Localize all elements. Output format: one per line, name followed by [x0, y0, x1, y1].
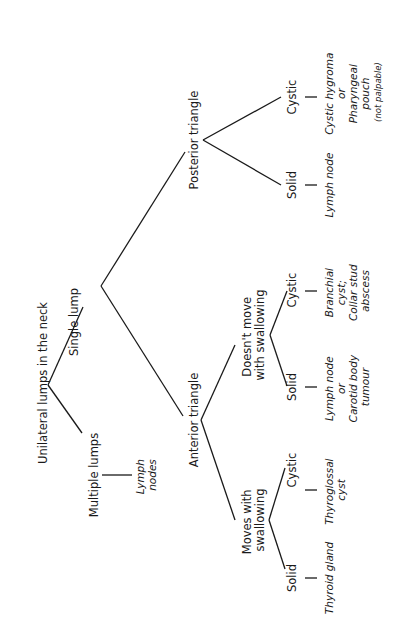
result-line: Lymph: [134, 459, 146, 494]
node-anterior-triangle: Anterior triangle: [187, 373, 201, 467]
node-moves-with-swallowing: Moves with swallowing: [240, 486, 267, 555]
label-line: Moves with: [240, 489, 254, 554]
node-single-lump: Single lump: [67, 288, 81, 356]
result-line: Collar stud: [347, 264, 359, 321]
result-cystic-hygroma: Cystic hygroma or Pharyngeal pouch (not …: [323, 49, 383, 134]
node-moves-cystic: Cystic: [285, 453, 299, 488]
result-line: abscess: [359, 270, 371, 312]
node-doesnt-cystic: Cystic: [285, 273, 299, 308]
result-line: Carotid body: [347, 354, 359, 422]
result-line: Cystic hygroma: [323, 53, 335, 135]
result-line: or: [335, 383, 347, 394]
result-line: Branchial: [323, 268, 335, 317]
node-moves-solid: Solid: [285, 564, 299, 592]
edge-single-posterior: [101, 152, 185, 286]
edge-anterior-doesnt: [201, 345, 235, 420]
label-line: swallowing: [253, 488, 267, 551]
result-lymph-node-carotid: Lymph node or Carotid body tumour: [323, 352, 371, 423]
result-line: nodes: [146, 459, 158, 491]
node-doesnt-solid: Solid: [285, 373, 299, 401]
node-doesnt-move-with-swallowing: Doesn't move with swallowing: [240, 289, 267, 380]
result-line: Pharyngeal: [347, 64, 359, 123]
result-thyroid-gland: Thyroid gland: [323, 542, 335, 615]
result-lymph-nodes: Lymph nodes: [134, 456, 158, 495]
result-line: tumour: [359, 367, 371, 406]
node-posterior-cystic: Cystic: [285, 80, 299, 115]
edge-single-anterior: [101, 286, 183, 416]
decision-tree-diagram: Unilateral lumps in the neck Multiple lu…: [0, 0, 407, 631]
result-lymph-node: Lymph node: [323, 153, 335, 218]
edge-moves-solid: [269, 520, 285, 569]
result-line: pouch: [359, 78, 371, 111]
result-line: cyst;: [335, 280, 347, 305]
node-posterior-solid: Solid: [285, 171, 299, 199]
result-line: Thyroglossal: [323, 458, 335, 524]
node-multiple-lumps: Multiple lumps: [87, 433, 101, 517]
edge-posterior-cystic: [203, 97, 281, 140]
root-label: Unilateral lumps in the neck: [36, 302, 50, 464]
edge-root-multiple: [48, 385, 82, 433]
result-line: Lymph node: [323, 356, 335, 421]
label-line: with swallowing: [253, 289, 267, 380]
node-posterior-triangle: Posterior triangle: [187, 91, 201, 190]
result-thyroglossal-cyst: Thyroglossal cyst: [323, 455, 347, 525]
edge-anterior-moves: [201, 420, 235, 520]
edge-posterior-solid: [203, 140, 281, 185]
result-line: or: [335, 88, 347, 99]
result-line: (not palpable): [373, 62, 383, 122]
result-branchial-cyst: Branchial cyst; Collar stud abscess: [323, 261, 371, 321]
label-line: Doesn't move: [240, 297, 254, 377]
result-line: cyst: [335, 478, 347, 500]
edge-moves-cystic: [269, 468, 285, 520]
